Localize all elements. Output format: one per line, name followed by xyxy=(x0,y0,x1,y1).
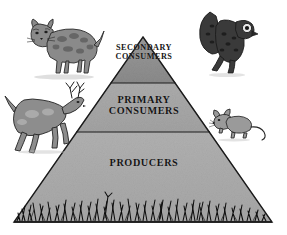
mouse-icon xyxy=(206,104,270,142)
owl-icon xyxy=(190,4,264,78)
deer-icon xyxy=(2,78,86,154)
bobcat-icon xyxy=(14,9,106,81)
energy-pyramid-diagram: SECONDARY CONSUMERS PRIMARY CONSUMERS PR… xyxy=(0,0,287,235)
